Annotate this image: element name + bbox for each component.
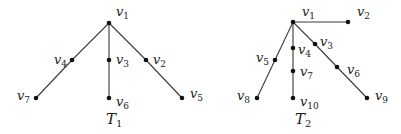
tree-label: T1	[106, 110, 122, 129]
node-label-v1: v1	[116, 4, 129, 21]
node-v9	[365, 96, 370, 101]
node-v4	[70, 58, 75, 63]
edge-v1-v4	[72, 23, 109, 60]
node-v8	[255, 96, 260, 101]
node-label-v2: v2	[153, 52, 166, 69]
node-v5	[180, 96, 185, 101]
node-v1	[107, 21, 112, 26]
node-label-v7: v7	[17, 88, 30, 105]
node-label-v9: v9	[375, 88, 388, 105]
node-v7	[291, 69, 296, 74]
node-v6	[335, 65, 340, 70]
node-v5	[273, 58, 278, 63]
node-v7	[34, 96, 39, 101]
node-v4	[291, 46, 296, 51]
node-label-v6: v6	[116, 94, 129, 111]
node-label-v2: v2	[357, 4, 370, 21]
node-v3	[107, 58, 112, 63]
node-v3	[313, 42, 318, 47]
node-v6	[107, 96, 112, 101]
node-label-v7: v7	[300, 64, 313, 81]
node-v2	[346, 20, 351, 25]
edge-v1-v5	[275, 22, 293, 60]
node-label-v1: v1	[302, 4, 315, 21]
edge-v1-v2	[109, 23, 146, 60]
node-label-v8: v8	[237, 88, 250, 105]
tree-diagram: v1v2v3v4v5v6v7T1 v1v2v3v4v5v6v7v8v9v10T2	[0, 0, 401, 134]
node-label-v10: v10	[300, 94, 319, 111]
node-label-v4: v4	[54, 52, 67, 69]
node-label-v5: v5	[190, 86, 203, 103]
node-label-v5: v5	[256, 50, 269, 67]
node-v1	[291, 20, 296, 25]
node-label-v4: v4	[298, 42, 311, 59]
node-label-v6: v6	[347, 62, 360, 79]
node-label-v3: v3	[116, 52, 129, 69]
tree-label: T2	[295, 110, 311, 129]
node-v2	[144, 58, 149, 63]
tree-t2: v1v2v3v4v5v6v7v8v9v10T2	[237, 4, 388, 129]
edge-v1-v3	[293, 22, 315, 44]
tree-t1: v1v2v3v4v5v6v7T1	[17, 4, 203, 129]
node-v10	[291, 96, 296, 101]
node-label-v3: v3	[320, 34, 333, 51]
